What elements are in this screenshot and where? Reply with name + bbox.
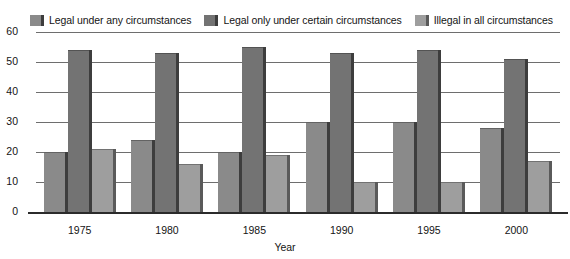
bar-group-1975 — [44, 32, 116, 212]
legend-label-series-3: Illegal in all circumstances — [434, 15, 553, 26]
bar-2000-series-1 — [480, 128, 504, 212]
bar-1990-series-1 — [306, 122, 330, 212]
legend-entry-legal-certain: Legal only under certain circumstances — [204, 15, 401, 26]
bar-1995-series-1 — [393, 122, 417, 212]
y-tick-label: 60 — [0, 26, 18, 36]
bar-1985-series-2 — [242, 47, 266, 212]
x-tick-label-2000: 2000 — [481, 224, 551, 236]
bar-1975-series-2 — [68, 50, 92, 212]
x-tick-label-1975: 1975 — [45, 224, 115, 236]
x-tick-label-1985: 1985 — [219, 224, 289, 236]
bar-group-1980 — [131, 32, 203, 212]
y-tick-label: 40 — [0, 86, 18, 96]
bar-1975-series-1 — [44, 152, 68, 212]
bar-1975-series-3 — [92, 149, 116, 212]
bar-1980-series-2 — [155, 53, 179, 212]
x-axis-baseline — [28, 212, 568, 214]
legend-label-series-2: Legal only under certain circumstances — [223, 15, 401, 26]
bar-1985-series-3 — [266, 155, 290, 212]
bar-2000-series-3 — [528, 161, 552, 212]
bar-1990-series-2 — [330, 53, 354, 212]
bar-1980-series-3 — [179, 164, 203, 212]
bar-group-2000 — [480, 32, 552, 212]
y-tick-label: 20 — [0, 146, 18, 156]
plot-area: 0102030405060 — [36, 32, 560, 212]
y-tick-label: 50 — [0, 56, 18, 66]
x-tick-label-1995: 1995 — [394, 224, 464, 236]
bar-group-1995 — [393, 32, 465, 212]
x-tick-label-1980: 1980 — [132, 224, 202, 236]
legend-entry-illegal-all: Illegal in all circumstances — [415, 15, 553, 26]
legend-swatch-series-2 — [204, 15, 218, 26]
x-axis-title: Year — [0, 241, 570, 253]
x-tick-label-1990: 1990 — [307, 224, 377, 236]
bar-1995-series-2 — [417, 50, 441, 212]
y-tick-label: 0 — [0, 206, 18, 216]
bar-series-container — [36, 32, 560, 212]
legend-entry-legal-any: Legal under any circumstances — [30, 15, 191, 26]
bar-chart: 0102030405060 — [0, 26, 570, 222]
legend-swatch-series-1 — [30, 15, 44, 26]
legend-label-series-1: Legal under any circumstances — [49, 15, 191, 26]
bar-1990-series-3 — [354, 182, 378, 212]
bar-2000-series-2 — [504, 59, 528, 212]
bar-1995-series-3 — [441, 182, 465, 212]
bar-group-1985 — [218, 32, 290, 212]
bar-group-1990 — [306, 32, 378, 212]
x-axis-ticks: 197519801985199019952000 — [36, 224, 560, 238]
bar-1985-series-1 — [218, 152, 242, 212]
y-tick-label: 30 — [0, 116, 18, 126]
y-tick-label: 10 — [0, 176, 18, 186]
bar-1980-series-1 — [131, 140, 155, 212]
legend-swatch-series-3 — [415, 15, 429, 26]
